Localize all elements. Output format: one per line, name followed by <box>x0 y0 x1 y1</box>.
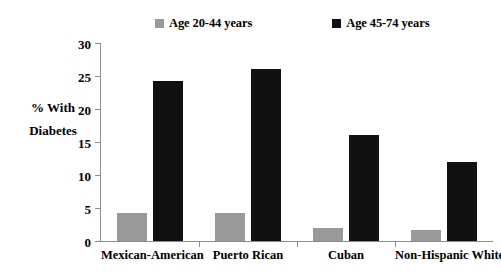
bar <box>153 81 183 241</box>
y-axis-tick: 20 <box>95 109 101 110</box>
y-axis-tick-label: 0 <box>85 235 92 248</box>
y-axis-tick: 10 <box>95 175 101 176</box>
y-axis-tick-label: 20 <box>78 103 91 116</box>
x-axis-category-label: Non-Hispanic White <box>395 249 493 262</box>
legend-entry-age-20-44: Age 20-44 years <box>155 17 252 30</box>
y-axis-tick: 0 <box>95 241 101 242</box>
bar <box>251 69 281 241</box>
x-axis-tick <box>395 241 396 247</box>
plot-area: 051015202530 Mexican-AmericanPuerto Rica… <box>101 43 493 241</box>
x-axis-category-label: Mexican-American <box>101 249 199 262</box>
bar <box>215 213 245 241</box>
y-axis-tick: 15 <box>95 142 101 143</box>
y-axis-tick-label: 10 <box>78 169 91 182</box>
y-axis-tick-label: 25 <box>78 70 91 83</box>
legend-swatch-age-20-44 <box>155 19 164 28</box>
bar <box>349 135 379 241</box>
x-axis-tick <box>297 241 298 247</box>
bar-chart-figure: Age 20-44 years Age 45-74 years % With D… <box>0 0 501 274</box>
bar <box>447 162 477 241</box>
x-axis-tick <box>199 241 200 247</box>
bar <box>117 213 147 241</box>
y-axis-tick-label: 30 <box>78 37 91 50</box>
bar <box>411 230 441 241</box>
x-axis-category-label: Cuban <box>297 249 395 262</box>
y-axis-tick-label: 5 <box>85 202 92 215</box>
legend-label-age-45-74: Age 45-74 years <box>346 17 429 30</box>
legend-label-age-20-44: Age 20-44 years <box>169 17 252 30</box>
legend-swatch-age-45-74 <box>332 19 341 28</box>
bar <box>313 228 343 241</box>
y-axis-tick: 5 <box>95 208 101 209</box>
x-axis-category-label: Puerto Rican <box>199 249 297 262</box>
chart-legend: Age 20-44 years Age 45-74 years <box>155 13 485 33</box>
y-axis-tick-label: 15 <box>78 136 91 149</box>
y-axis-tick: 30 <box>95 43 101 44</box>
legend-entry-age-45-74: Age 45-74 years <box>332 17 429 30</box>
y-axis-tick: 25 <box>95 76 101 77</box>
